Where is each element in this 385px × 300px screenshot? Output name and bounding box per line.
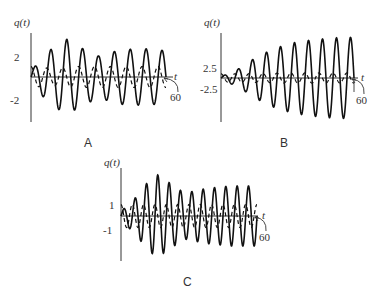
x-axis-label: t (174, 70, 178, 82)
panel-c-chart: q(t) 1 -1 t 60 C (103, 156, 271, 289)
y-axis-label: q(t) (104, 156, 120, 169)
panel-label: B (280, 136, 288, 150)
solid-curve (31, 39, 166, 110)
y-tick-label-pos: 1 (109, 199, 115, 211)
panel-label: A (84, 136, 92, 150)
panel-a-chart: q(t) 2 -2 t 60 A (10, 16, 182, 150)
panel-label: C (183, 275, 192, 289)
y-tick-label-neg: -2.5 (200, 83, 218, 95)
x-end-label: 60 (170, 91, 182, 103)
x-end-label: 60 (356, 94, 368, 106)
panel-b-chart: q(t) 2.5 -2.5 t 60 B (200, 16, 368, 150)
x-end-label: 60 (259, 231, 271, 243)
x-axis-label: t (361, 71, 365, 83)
y-tick-label-pos: 2 (14, 51, 20, 63)
figure-canvas: q(t) 2 -2 t 60 A q(t) 2.5 -2.5 t 60 B q(… (0, 0, 385, 300)
y-tick-label-pos: 2.5 (203, 62, 217, 74)
y-tick-label-neg: -2 (10, 94, 19, 106)
y-tick-label-neg: -1 (103, 224, 112, 236)
y-axis-label: q(t) (14, 16, 30, 29)
x-axis-label: t (262, 209, 266, 221)
y-axis-label: q(t) (204, 16, 220, 29)
